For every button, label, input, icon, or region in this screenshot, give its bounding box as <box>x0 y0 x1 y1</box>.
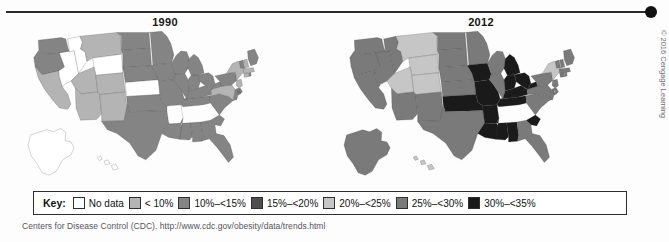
state-mn <box>465 31 490 65</box>
state-ks <box>441 80 476 97</box>
state-nm <box>416 92 444 121</box>
state-nm <box>100 92 128 121</box>
us-choropleth-2012 <box>324 28 638 188</box>
top-divider-rule <box>6 11 651 13</box>
legend-item: 30%–<35% <box>468 197 540 209</box>
state-ar <box>483 105 499 124</box>
legend-swatch <box>251 197 263 209</box>
state-ct <box>244 73 249 77</box>
legend-swatch <box>396 197 408 209</box>
state-ms <box>496 118 509 140</box>
legend-item: 20%–<25% <box>323 197 395 209</box>
legend-swatch-label: 10%–<15% <box>194 198 245 209</box>
state-nd <box>433 32 466 50</box>
state-fl <box>525 134 549 163</box>
state-ar <box>167 105 183 124</box>
map-panel-1990: 1990 <box>8 14 322 190</box>
state-hi <box>413 156 434 170</box>
state-co <box>96 73 125 95</box>
state-mi <box>188 54 204 75</box>
state-ri <box>565 72 567 76</box>
state-mn <box>149 31 174 65</box>
state-wy <box>409 54 439 75</box>
map-legend: Key: No data< 10%10%–<15%15%–<20%20%–<25… <box>33 191 627 215</box>
legend-swatch <box>323 197 335 209</box>
state-fl <box>209 134 233 163</box>
state-dc <box>554 90 556 92</box>
legend-swatch-label: No data <box>89 198 124 209</box>
state-ks <box>125 80 160 97</box>
legend-item: < 10% <box>129 197 179 209</box>
state-az <box>75 88 101 120</box>
state-nd <box>117 32 150 50</box>
state-wi <box>171 51 189 74</box>
state-nj <box>552 79 558 88</box>
state-ms <box>180 118 193 140</box>
map-panel-2012: 2012 <box>324 14 638 190</box>
legend-swatch <box>129 197 141 209</box>
legend-swatch-label: 15%–<20% <box>267 198 318 209</box>
source-caption: Centers for Disease Control (CDC). http:… <box>22 221 325 231</box>
state-nh <box>244 59 249 67</box>
legend-swatch-label: 20%–<25% <box>339 198 390 209</box>
copyright-credit: © 2016 Cengage Learning <box>659 30 668 118</box>
legend-item: No data <box>73 197 129 209</box>
state-me <box>248 49 259 66</box>
state-al <box>191 122 203 142</box>
legend-swatch-label: 25%–<30% <box>412 198 463 209</box>
state-co <box>412 73 441 95</box>
state-ak <box>28 128 74 175</box>
state-wy <box>93 54 123 75</box>
state-wi <box>487 51 505 74</box>
state-sd <box>437 48 467 67</box>
legend-item: 15%–<20% <box>251 197 323 209</box>
us-map-svg-1990 <box>8 28 322 188</box>
state-dc <box>238 90 240 92</box>
state-al <box>507 122 519 142</box>
state-mi <box>504 54 520 75</box>
state-ct <box>560 73 565 77</box>
us-choropleth-1990 <box>8 28 322 188</box>
state-sd <box>121 48 151 67</box>
state-az <box>391 88 417 120</box>
legend-swatch <box>178 197 190 209</box>
legend-items: No data< 10%10%–<15%15%–<20%20%–<25%25%–… <box>73 197 541 209</box>
state-nh <box>560 59 565 67</box>
map-title-2012: 2012 <box>324 16 638 28</box>
legend-key-label: Key: <box>43 197 66 209</box>
us-map-svg-2012 <box>324 28 638 188</box>
legend-item: 25%–<30% <box>396 197 468 209</box>
obesity-maps-figure: 1990 2012 <box>0 14 669 190</box>
legend-swatch <box>468 197 480 209</box>
state-ri <box>249 72 251 76</box>
state-nj <box>236 79 242 88</box>
legend-swatch <box>73 197 85 209</box>
legend-swatch-label: < 10% <box>145 198 174 209</box>
legend-swatch-label: 30%–<35% <box>484 198 535 209</box>
legend-item: 10%–<15% <box>178 197 250 209</box>
state-me <box>564 49 575 66</box>
map-title-1990: 1990 <box>8 16 322 28</box>
state-hi <box>97 156 118 170</box>
state-ak <box>344 128 390 175</box>
